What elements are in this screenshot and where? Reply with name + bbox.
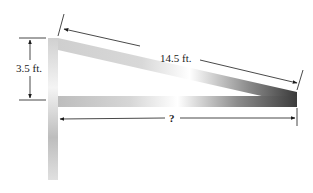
base-unknown-label: ?: [169, 112, 175, 124]
vertical-post: [48, 38, 58, 180]
brace-diagram: 3.5 ft. 14.5 ft. ?: [0, 0, 313, 193]
slant-tick-left: [58, 14, 64, 36]
horizontal-beam: [58, 96, 297, 107]
slant-tick-right: [297, 70, 303, 90]
slant-label: 14.5 ft.: [160, 52, 192, 64]
base-arrow-left: [60, 118, 165, 119]
slanted-rafter: [58, 38, 297, 104]
height-label: 3.5 ft.: [16, 62, 42, 74]
diagram-canvas: 3.5 ft. 14.5 ft. ?: [0, 0, 313, 193]
